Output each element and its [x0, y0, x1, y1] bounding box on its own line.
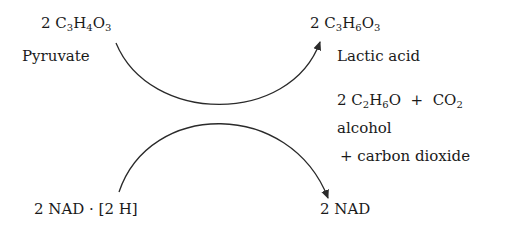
nad-label: 2 NAD	[320, 200, 370, 218]
alcohol-name: alcohol	[337, 119, 392, 137]
alcohol-co2-formula: 2 C2H6O + CO2	[337, 91, 463, 109]
reaction-arrows	[0, 0, 513, 229]
carbon-dioxide-name: + carbon dioxide	[340, 147, 470, 165]
pyruvate-name: Pyruvate	[22, 47, 90, 65]
pyruvate-formula: 2 C3H4O3	[41, 14, 111, 32]
lactic-acid-formula: 2 C3H6O3	[310, 14, 380, 32]
nadh-label: 2 NAD · [2 H]	[34, 200, 138, 218]
lactic-acid-name: Lactic acid	[337, 47, 420, 65]
arrow-nadh-to-nad	[119, 124, 328, 198]
arrow-pyruvate-to-lactic-acid	[116, 42, 320, 104]
